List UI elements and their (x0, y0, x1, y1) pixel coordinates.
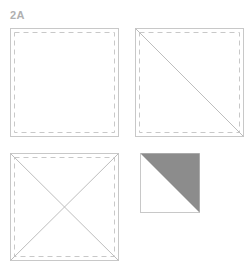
half-square-triangle (141, 154, 200, 213)
quilt-diagram (0, 0, 252, 261)
diagonal-line (136, 29, 244, 137)
double-diagonal-square (11, 154, 119, 261)
shaded-triangle (141, 154, 200, 213)
seam-allowance-dashed (15, 33, 115, 133)
single-diagonal-square (136, 29, 244, 137)
square-outline (11, 29, 119, 137)
plain-square (11, 29, 119, 137)
